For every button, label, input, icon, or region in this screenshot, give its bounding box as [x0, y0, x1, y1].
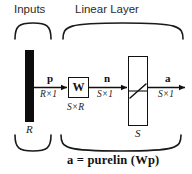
signal-n-label: n [104, 73, 110, 84]
signal-p-label: p [47, 73, 53, 84]
weight-matrix-dimension: S×R [67, 103, 84, 113]
inputs-group-label: Inputs [14, 4, 45, 16]
layer-equation: a = purelin (Wp) [67, 154, 159, 167]
weight-matrix-symbol: W [69, 78, 88, 97]
input-size-brace-icon [14, 134, 52, 152]
signal-a-dimension: S×1 [158, 90, 174, 100]
inputs-group-brace-icon [14, 22, 52, 40]
linear-layer-diagram: Inputs Linear Layer W S×R [0, 0, 192, 174]
signal-p-dimension: R×1 [40, 90, 57, 100]
input-vector-bar-icon [25, 50, 34, 122]
equation-brace-icon [60, 134, 182, 152]
signal-a-label: a [165, 73, 171, 84]
signal-n-dimension: S×1 [97, 90, 113, 100]
purelin-linear-glyph-icon [128, 56, 148, 126]
linear-layer-group-brace-icon [62, 22, 184, 40]
weight-matrix-block: W [68, 77, 89, 98]
linear-layer-group-label: Linear Layer [75, 4, 139, 16]
